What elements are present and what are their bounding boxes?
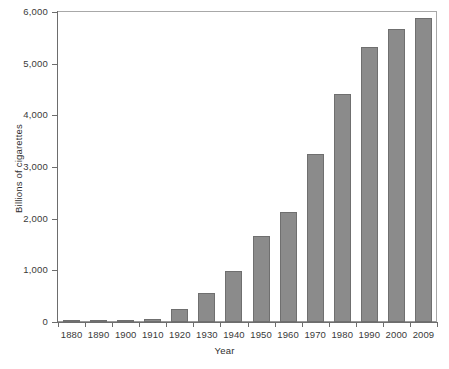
bar-1900	[117, 320, 134, 322]
x-tick-14	[437, 323, 438, 327]
x-tick-label-1880: 1880	[61, 329, 83, 340]
x-tick-1	[85, 323, 86, 327]
bar-1950	[253, 236, 270, 322]
x-tick-label-1910: 1910	[142, 329, 164, 340]
x-tick-5	[193, 323, 194, 327]
bar-2009	[415, 18, 432, 322]
x-tick-label-1980: 1980	[331, 329, 353, 340]
x-tick-label-2000: 2000	[386, 329, 408, 340]
y-tick-2000	[52, 219, 57, 220]
x-tick-12	[383, 323, 384, 327]
y-tick-5000	[52, 64, 57, 65]
x-tick-11	[356, 323, 357, 327]
x-axis-title: Year	[0, 345, 449, 356]
x-tick-label-1960: 1960	[277, 329, 299, 340]
y-tick-label-0: 0	[43, 317, 48, 327]
y-axis-title: Billions of cigarettes	[13, 104, 24, 234]
y-tick-label-1000: 1,000	[23, 265, 48, 275]
bar-1910	[144, 319, 161, 322]
bar-1990	[361, 47, 378, 322]
bar-1930	[198, 293, 215, 322]
y-tick-label-3000: 3,000	[23, 162, 48, 172]
x-tick-7	[248, 323, 249, 327]
x-tick-0	[58, 323, 59, 327]
x-tick-9	[302, 323, 303, 327]
y-tick-1000	[52, 270, 57, 271]
x-tick-6	[220, 323, 221, 327]
bars-layer	[58, 12, 437, 322]
bar-1880	[63, 320, 80, 322]
bar-2000	[388, 29, 405, 322]
x-tick-label-1900: 1900	[115, 329, 137, 340]
bar-1890	[90, 320, 107, 322]
y-tick-6000	[52, 12, 57, 13]
y-tick-label-4000: 4,000	[23, 110, 48, 120]
bar-1940	[225, 271, 242, 322]
bar-1970	[307, 154, 324, 322]
y-tick-0	[52, 322, 57, 323]
x-tick-label-1990: 1990	[359, 329, 381, 340]
x-tick-10	[329, 323, 330, 327]
x-tick-4	[166, 323, 167, 327]
bar-1920	[171, 309, 188, 322]
x-tick-label-1930: 1930	[196, 329, 218, 340]
y-tick-label-6000: 6,000	[23, 7, 48, 17]
x-tick-label-1920: 1920	[169, 329, 191, 340]
x-tick-13	[410, 323, 411, 327]
y-tick-4000	[52, 115, 57, 116]
bar-1980	[334, 94, 351, 322]
y-tick-label-2000: 2,000	[23, 214, 48, 224]
x-tick-8	[275, 323, 276, 327]
y-tick-label-5000: 5,000	[23, 59, 48, 69]
x-tick-label-1970: 1970	[304, 329, 326, 340]
x-tick-2	[112, 323, 113, 327]
x-tick-label-2009: 2009	[413, 329, 435, 340]
x-tick-3	[139, 323, 140, 327]
x-tick-label-1950: 1950	[250, 329, 272, 340]
x-tick-label-1940: 1940	[223, 329, 245, 340]
x-tick-label-1890: 1890	[88, 329, 110, 340]
y-tick-3000	[52, 167, 57, 168]
bar-1960	[280, 212, 297, 322]
bar-chart-figure: 01,0002,0003,0004,0005,0006,000 18801890…	[0, 0, 449, 369]
